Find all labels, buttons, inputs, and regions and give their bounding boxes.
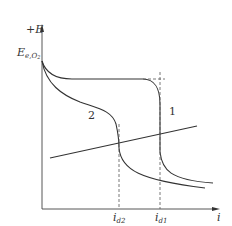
y-axis-label: +E bbox=[26, 24, 43, 35]
curve-2-label: 2 bbox=[88, 110, 95, 121]
x-axis-label-text: i bbox=[217, 211, 221, 224]
load-line bbox=[50, 126, 197, 158]
curve-1-label: 1 bbox=[169, 106, 176, 117]
curve-1 bbox=[42, 61, 213, 183]
marker-sub2: 2 bbox=[37, 54, 40, 60]
tick-label-id2: id2 bbox=[113, 212, 125, 225]
curve-2 bbox=[42, 61, 205, 188]
tick-label-id1: id1 bbox=[155, 212, 167, 225]
tick-id2-sub: d2 bbox=[117, 217, 126, 225]
marker-base: E bbox=[17, 46, 25, 59]
equilibrium-potential-label: Ee,O2 bbox=[17, 47, 40, 60]
polarization-diagram: +E i Ee,O2 id2 id1 1 2 bbox=[0, 0, 232, 226]
y-axis-label-text: +E bbox=[26, 23, 43, 36]
tick-id1-sub: d1 bbox=[159, 217, 168, 225]
marker-sub: e,O bbox=[25, 52, 37, 60]
x-axis-label: i bbox=[217, 212, 221, 223]
